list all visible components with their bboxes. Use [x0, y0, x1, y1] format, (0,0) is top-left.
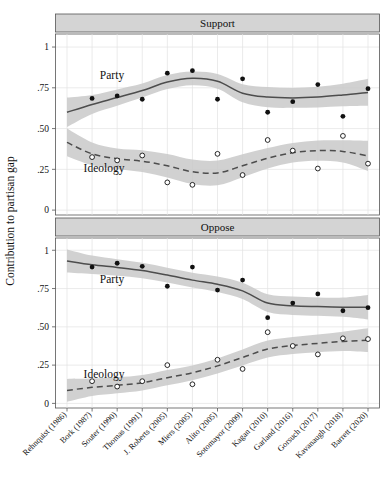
data-point-party — [165, 71, 170, 76]
panel-title: Oppose — [201, 221, 235, 233]
data-point-ideology — [290, 148, 295, 153]
data-point-ideology — [190, 182, 195, 187]
data-point-ideology — [140, 153, 145, 158]
data-point-ideology — [215, 357, 220, 362]
data-point-ideology — [315, 352, 320, 357]
data-point-party — [140, 97, 145, 102]
data-point-party — [315, 292, 320, 297]
y-tick-label: 1 — [44, 42, 49, 52]
series-label-ideology: Ideology — [84, 162, 125, 175]
x-tick-label: J. Roberts (2005) — [122, 410, 169, 457]
panel-title: Support — [200, 17, 235, 29]
data-point-party — [240, 278, 245, 283]
data-point-party — [366, 86, 371, 91]
y-tick-label: 1 — [44, 246, 49, 256]
y-tick-label: .25 — [37, 165, 49, 175]
data-point-ideology — [265, 330, 270, 335]
data-point-party — [215, 288, 220, 293]
data-point-ideology — [366, 161, 371, 166]
data-point-party — [290, 99, 295, 104]
data-point-ideology — [366, 337, 371, 342]
data-point-party — [240, 76, 245, 81]
y-axis-title: Contribution to partisan gap — [4, 156, 17, 286]
data-point-ideology — [240, 367, 245, 372]
data-point-ideology — [190, 382, 195, 387]
data-point-ideology — [115, 384, 120, 389]
series-label-party: Party — [100, 69, 125, 82]
data-point-party — [115, 261, 120, 266]
data-point-party — [366, 305, 371, 310]
data-point-party — [165, 284, 170, 289]
y-tick-label: .25 — [37, 360, 49, 370]
y-tick-label: 0 — [44, 205, 49, 215]
data-point-party — [190, 265, 195, 270]
data-point-ideology — [341, 134, 346, 139]
data-point-party — [90, 265, 95, 270]
y-tick-label: .50 — [37, 124, 49, 134]
y-tick-label: 0 — [44, 399, 49, 409]
data-point-party — [290, 301, 295, 306]
data-point-ideology — [165, 180, 170, 185]
x-tick-label: Rehnquist (1986) — [21, 410, 68, 457]
data-point-party — [140, 264, 145, 269]
y-tick-label: .75 — [37, 284, 49, 294]
data-point-ideology — [140, 379, 145, 384]
data-point-party — [215, 97, 220, 102]
x-tick-label: Sotomayor (2009) — [195, 410, 244, 459]
series-label-party: Party — [100, 273, 125, 286]
data-point-party — [265, 110, 270, 115]
data-point-party — [341, 114, 346, 119]
data-point-party — [265, 315, 270, 320]
data-point-ideology — [341, 336, 346, 341]
data-point-ideology — [215, 151, 220, 156]
data-point-ideology — [290, 344, 295, 349]
panel-oppose: OpposePartyIdeology0.25.50.751 — [37, 218, 379, 409]
data-point-party — [341, 308, 346, 313]
data-point-party — [315, 82, 320, 87]
chart-figure: Contribution to partisan gapSupportParty… — [0, 0, 387, 497]
data-point-ideology — [165, 363, 170, 368]
data-point-party — [90, 96, 95, 101]
panel-support: SupportPartyIdeology0.25.50.751 — [37, 14, 379, 215]
data-point-party — [115, 94, 120, 99]
data-point-ideology — [240, 173, 245, 178]
chart-svg: Contribution to partisan gapSupportParty… — [0, 0, 387, 497]
data-point-ideology — [265, 138, 270, 143]
y-tick-label: .50 — [37, 322, 49, 332]
series-label-ideology: Ideology — [84, 368, 125, 381]
data-point-party — [190, 68, 195, 73]
data-point-ideology — [315, 166, 320, 171]
y-tick-label: .75 — [37, 83, 49, 93]
data-point-ideology — [90, 155, 95, 160]
